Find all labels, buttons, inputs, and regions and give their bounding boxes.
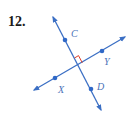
point-c bbox=[63, 38, 68, 43]
diagram-canvas: 12. C Y X D bbox=[0, 0, 134, 121]
point-y bbox=[100, 49, 105, 54]
point-x bbox=[53, 76, 58, 81]
label-d: D bbox=[96, 81, 105, 92]
label-y: Y bbox=[104, 56, 111, 67]
perpendicular-lines-figure: C Y X D bbox=[0, 0, 134, 121]
line-xy bbox=[34, 37, 125, 90]
point-d bbox=[89, 87, 94, 92]
label-c: C bbox=[71, 28, 78, 39]
label-x: X bbox=[57, 84, 65, 95]
